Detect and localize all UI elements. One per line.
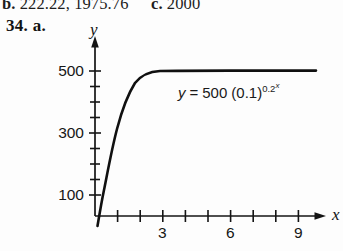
x-tick-label-9: 9	[294, 224, 303, 242]
equation-exponent: 0.2x	[262, 83, 279, 94]
y-tick-label-500: 500	[44, 62, 84, 80]
equation-equals: =	[190, 84, 199, 101]
equation-coefficient: 500	[202, 84, 227, 101]
equation-annotation: y=500(0.1)0.2x	[178, 84, 279, 101]
equation-base: 0.1	[236, 84, 257, 101]
answer-key-figure-page: b. 222.22, 1975.76 c. 2000 34. a.	[0, 0, 343, 251]
x-tick-label-3: 3	[158, 224, 167, 242]
x-axis-arrowhead	[315, 212, 327, 220]
x-tick-label-6: 6	[226, 224, 235, 242]
x-axis-label: x	[332, 205, 340, 225]
y-tick-label-100: 100	[44, 186, 84, 204]
y-axis-label: y	[90, 20, 98, 40]
equation-lhs: y	[178, 84, 186, 101]
equation-exponent-base: 0.2	[262, 83, 275, 94]
y-tick-label-300: 300	[44, 124, 84, 142]
equation-exponent-exponent: x	[275, 81, 279, 90]
